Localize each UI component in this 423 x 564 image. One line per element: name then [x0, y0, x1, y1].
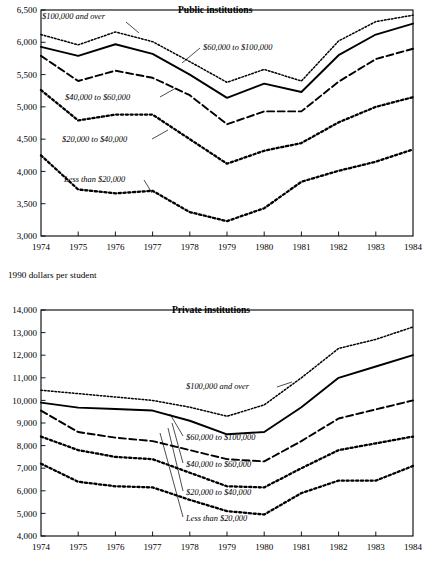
series-label: $60,000 to $100,000 [186, 433, 256, 442]
x-axis-tick-label: 1980 [255, 242, 274, 252]
series-label: $40,000 to $60,000 [186, 460, 252, 469]
x-axis-tick-label: 1975 [69, 242, 88, 252]
y-axis-tick-label: 3,000 [17, 231, 38, 241]
chart-panel-public: Public institutions 3,0003,5004,0004,500… [0, 0, 423, 262]
x-axis-tick-label: 1984 [404, 242, 423, 252]
dual-line-chart-figure: Public institutions 3,0003,5004,0004,500… [0, 0, 423, 564]
series-label-leader-line [160, 88, 176, 97]
series-label: $60,000 to $100,000 [203, 43, 273, 52]
y-axis-tick-label: 8,000 [17, 441, 38, 451]
x-axis-tick-label: 1978 [181, 242, 200, 252]
x-axis-tick-label: 1977 [144, 242, 163, 252]
data-series-line [41, 400, 413, 461]
plot-area-public: 3,0003,5004,0004,5005,0005,5006,0006,500… [0, 0, 423, 262]
series-label: $40,000 to $60,000 [65, 93, 131, 102]
series-label: $20,000 to $40,000 [186, 488, 252, 497]
y-axis-tick-label: 5,500 [17, 70, 38, 80]
y-axis-tick-label: 5,000 [17, 102, 38, 112]
y-axis-tick-label: 6,500 [17, 5, 38, 15]
y-axis-tick-label: 4,500 [17, 134, 38, 144]
data-series-line [41, 49, 413, 125]
series-label-leader-line [182, 48, 200, 63]
series-label: $20,000 to $40,000 [62, 135, 128, 144]
series-label: $100,000 and over [186, 382, 250, 391]
y-axis-tick-label: 10,000 [12, 396, 37, 406]
x-axis-tick-label: 1976 [106, 242, 125, 252]
x-axis-tick-label: 1978 [181, 542, 200, 552]
series-label: $100,000 and over [42, 12, 106, 21]
series-label-leader-line [152, 130, 168, 139]
y-axis-tick-label: 7,000 [17, 463, 38, 473]
y-axis-tick-label: 9,000 [17, 418, 38, 428]
data-series-line [41, 149, 413, 221]
y-axis-tick-label: 13,000 [12, 328, 37, 338]
series-label-leader-line [126, 22, 139, 33]
x-axis-tick-label: 1977 [144, 542, 163, 552]
y-axis-tick-label: 12,000 [12, 350, 37, 360]
y-axis-tick-label: 6,000 [17, 486, 38, 496]
x-axis-tick-label: 1982 [330, 242, 348, 252]
x-axis-tick-label: 1976 [106, 542, 125, 552]
x-axis-tick-label: 1983 [367, 242, 386, 252]
x-axis-tick-label: 1974 [32, 242, 51, 252]
x-axis-tick-label: 1974 [32, 542, 51, 552]
x-axis-tick-label: 1980 [255, 542, 274, 552]
data-series-line [41, 24, 413, 98]
y-axis-tick-label: 4,000 [17, 531, 38, 541]
x-axis-tick-label: 1982 [330, 542, 348, 552]
series-label: Less than $20,000 [63, 175, 126, 184]
y-axis-tick-label: 5,000 [17, 509, 38, 519]
x-axis-tick-label: 1975 [69, 542, 88, 552]
y-axis-tick-label: 6,000 [17, 37, 38, 47]
y-axis-tick-label: 3,500 [17, 199, 38, 209]
x-axis-tick-label: 1981 [292, 242, 310, 252]
x-axis-tick-label: 1979 [218, 542, 237, 552]
y-axis-tick-label: 11,000 [13, 373, 38, 383]
y-axis-tick-label: 4,000 [17, 167, 38, 177]
x-axis-tick-label: 1981 [292, 542, 310, 552]
chart-panel-private: 1990 dollars per student Private institu… [0, 268, 423, 564]
x-axis-tick-label: 1983 [367, 542, 386, 552]
x-axis-tick-label: 1984 [404, 542, 423, 552]
series-label: Less than $20,000 [185, 514, 248, 523]
series-label-leader-line [168, 428, 183, 491]
x-axis-tick-label: 1979 [218, 242, 237, 252]
series-label-leader-line [172, 423, 183, 463]
plot-area-private: 4,0005,0006,0007,0008,0009,00010,00011,0… [0, 268, 423, 564]
y-axis-tick-label: 14,000 [12, 305, 37, 315]
